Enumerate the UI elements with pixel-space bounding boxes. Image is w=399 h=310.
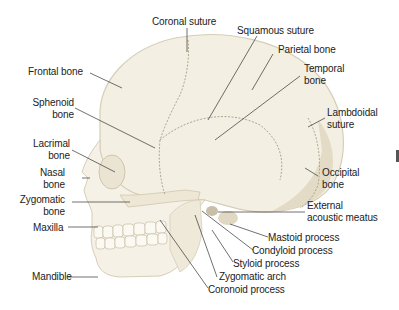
label-squamous-suture: Squamous suture: [237, 25, 314, 37]
mandible-ramus: [170, 200, 202, 272]
label-coronoid-process: Coronoid process: [208, 284, 285, 296]
label-lambdoidal-suture: Lambdoidal suture: [327, 107, 378, 131]
label-styloid-process: Styloid process: [233, 258, 299, 270]
label-zygomatic-arch: Zygomatic arch: [219, 271, 286, 283]
label-parietal-bone: Parietal bone: [278, 44, 336, 56]
label-coronal-suture: Coronal suture: [152, 16, 216, 28]
label-external-acoustic-meatus: External acoustic meatus: [307, 200, 378, 224]
external-acoustic-meatus-shape: [206, 206, 218, 216]
label-sphenoid-bone: Sphenoid bone: [24, 97, 74, 121]
label-temporal-bone: Temporal bone: [304, 63, 344, 87]
orbit: [99, 155, 125, 189]
mastoid-shape: [218, 211, 238, 225]
label-frontal-bone: Frontal bone: [28, 66, 83, 78]
label-maxilla: Maxilla: [33, 222, 63, 234]
label-nasal-bone: Nasal bone: [15, 167, 65, 191]
label-zygomatic-bone: Zygomatic bone: [5, 194, 65, 218]
label-mandible: Mandible: [32, 271, 72, 283]
label-mastoid-process: Mastoid process: [268, 232, 339, 244]
label-condyloid-process: Condyloid process: [252, 245, 333, 257]
label-occipital-bone: Occipital bone: [322, 167, 359, 191]
label-lacrimal-bone: Lacrimal bone: [20, 138, 70, 162]
